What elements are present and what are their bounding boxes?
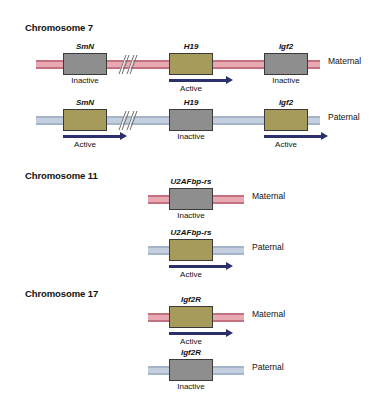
gene-state-label: Inactive <box>55 76 115 85</box>
imprinting-diagram: Chromosome 7Chromosome 11Chromosome 17Sm… <box>0 0 388 396</box>
gene-name-label: U2AFbp-rs <box>169 228 213 237</box>
allele-row: U2AFbp-rsInactiveMaternal <box>0 177 388 223</box>
chromosome-break-icon <box>118 55 138 74</box>
gene-box <box>63 109 107 131</box>
parental-origin-label: Paternal <box>252 242 284 252</box>
gene-name-label: SmN <box>63 42 107 51</box>
parental-origin-label: Maternal <box>328 56 361 66</box>
gene-state-label: Inactive <box>161 382 221 391</box>
allele-row: U2AFbp-rsActivePaternal <box>0 228 388 274</box>
gene-name-label: H19 <box>169 98 213 107</box>
gene-state-label: Inactive <box>161 211 221 220</box>
gene-state-label: Inactive <box>256 76 316 85</box>
gene-name-label: H19 <box>169 42 213 51</box>
gene-state-label: Active <box>161 337 221 346</box>
gene-box <box>169 109 213 131</box>
gene-box <box>264 109 308 131</box>
parental-origin-label: Paternal <box>328 112 360 122</box>
chromosome-heading: Chromosome 7 <box>25 22 93 33</box>
allele-row: Igf2RActiveMaternal <box>0 295 388 341</box>
gene-name-label: SmN <box>63 98 107 107</box>
transcription-arrow-icon <box>169 329 233 337</box>
gene-name-label: Igf2R <box>169 348 213 357</box>
chromosome-break-icon <box>118 111 138 130</box>
gene-state-label: Active <box>161 270 221 279</box>
gene-box <box>169 188 213 210</box>
gene-box <box>169 359 213 381</box>
parental-origin-label: Maternal <box>252 309 285 319</box>
gene-box <box>264 53 308 75</box>
gene-state-label: Active <box>256 140 316 149</box>
gene-name-label: Igf2 <box>264 98 308 107</box>
gene-state-label: Active <box>55 140 115 149</box>
gene-box <box>169 239 213 261</box>
gene-name-label: Igf2 <box>264 42 308 51</box>
gene-name-label: U2AFbp-rs <box>169 177 213 186</box>
transcription-arrow-icon <box>63 132 127 140</box>
transcription-arrow-icon <box>169 76 233 84</box>
gene-name-label: Igf2R <box>169 295 213 304</box>
gene-state-label: Active <box>161 84 221 93</box>
transcription-arrow-icon <box>264 132 328 140</box>
allele-row: SmNInactiveH19ActiveIgf2InactiveMaternal <box>0 42 388 88</box>
gene-box <box>169 53 213 75</box>
parental-origin-label: Maternal <box>252 191 285 201</box>
gene-box <box>169 306 213 328</box>
gene-state-label: Inactive <box>161 132 221 141</box>
allele-row: SmNActiveH19InactiveIgf2ActivePaternal <box>0 98 388 144</box>
gene-box <box>63 53 107 75</box>
allele-row: Igf2RInactivePaternal <box>0 348 388 394</box>
transcription-arrow-icon <box>169 262 233 270</box>
parental-origin-label: Paternal <box>252 362 284 372</box>
